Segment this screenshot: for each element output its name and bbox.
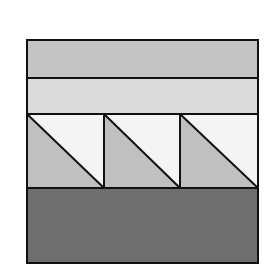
second-strip [27,78,258,114]
top-strip [27,40,258,78]
quilt-block-diagram [0,0,276,267]
bottom-strip [27,188,258,263]
